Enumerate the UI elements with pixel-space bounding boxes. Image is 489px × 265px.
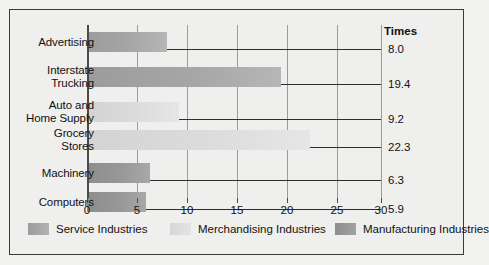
x-tick-label-20: 20 xyxy=(272,204,302,216)
leader-line-machinery xyxy=(150,180,381,181)
category-label-line: Home Supply xyxy=(0,112,94,125)
legend-item-manufacturing-industries: Manufacturing Industries xyxy=(335,223,489,235)
chart-legend: Service Industries Merchandising Industr… xyxy=(10,223,465,247)
gridline-10 xyxy=(187,25,188,198)
legend-label-merchandising: Merchandising Industries xyxy=(198,223,326,235)
x-tick-25 xyxy=(337,198,338,203)
value-label-machinery: 6.3 xyxy=(388,174,448,186)
x-tick-10 xyxy=(187,198,188,203)
legend-item-merchandising-industries: Merchandising Industries xyxy=(170,223,326,235)
value-label-grocery-stores: 22.3 xyxy=(388,141,448,153)
category-label-line: Interstate xyxy=(0,64,94,77)
chart-container: Advertising Interstate Trucking Auto and… xyxy=(9,9,464,255)
category-label-auto-and-home-supply: Auto and Home Supply xyxy=(0,99,94,125)
x-tick-label-10: 10 xyxy=(172,204,202,216)
x-tick-label-15: 15 xyxy=(222,204,252,216)
x-tick-5 xyxy=(137,198,138,203)
gridline-30 xyxy=(381,25,382,198)
category-label-line: Stores xyxy=(0,140,94,153)
category-label-line: Advertising xyxy=(0,36,94,49)
leader-line-interstate-trucking xyxy=(281,84,381,85)
value-column-header: Times xyxy=(384,25,454,37)
category-label-grocery-stores: Grocery Stores xyxy=(0,127,94,153)
value-label-computers: 5.9 xyxy=(388,203,448,215)
gridline-15 xyxy=(237,25,238,198)
gridline-20 xyxy=(287,25,288,198)
bar-advertising xyxy=(87,32,167,52)
category-label-line: Grocery xyxy=(0,127,94,140)
category-label-machinery: Machinery xyxy=(0,167,94,180)
bar-auto-and-home-supply xyxy=(87,102,179,122)
category-label-advertising: Advertising xyxy=(0,36,94,49)
value-label-advertising: 8.0 xyxy=(388,43,448,55)
legend-item-service-industries: Service Industries xyxy=(28,223,147,235)
category-label-line: Auto and xyxy=(0,99,94,112)
legend-label-manufacturing: Manufacturing Industries xyxy=(363,223,489,235)
bar-grocery-stores xyxy=(87,130,310,150)
legend-swatch-icon-service xyxy=(28,223,49,235)
category-label-interstate-trucking: Interstate Trucking xyxy=(0,64,94,90)
x-tick-label-5: 5 xyxy=(122,204,152,216)
leader-line-grocery-stores xyxy=(310,147,381,148)
x-tick-15 xyxy=(237,198,238,203)
category-label-line: Machinery xyxy=(0,167,94,180)
bar-interstate-trucking xyxy=(87,67,281,87)
gridline-25 xyxy=(337,25,338,198)
leader-line-advertising xyxy=(167,49,381,50)
category-label-line: Trucking xyxy=(0,77,94,90)
x-tick-label-0: 0 xyxy=(72,204,102,216)
x-tick-20 xyxy=(287,198,288,203)
x-tick-0 xyxy=(87,198,88,203)
plot-area: Advertising Interstate Trucking Auto and… xyxy=(10,10,465,256)
leader-line-auto-and-home-supply xyxy=(179,119,381,120)
legend-swatch-icon-manufacturing xyxy=(335,223,356,235)
legend-label-service: Service Industries xyxy=(56,223,147,235)
bar-machinery xyxy=(87,163,150,183)
legend-swatch-icon-merchandising xyxy=(170,223,191,235)
x-tick-30 xyxy=(381,198,382,203)
value-label-auto-and-home-supply: 9.2 xyxy=(388,113,448,125)
x-tick-label-25: 25 xyxy=(322,204,352,216)
value-label-interstate-trucking: 19.4 xyxy=(388,78,448,90)
